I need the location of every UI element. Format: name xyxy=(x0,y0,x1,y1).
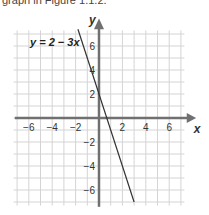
y-tick-label: 2 xyxy=(89,89,95,100)
y-tick-label: −6 xyxy=(84,185,96,196)
line-y-equals-2-minus-3x xyxy=(78,29,134,202)
x-tick-label: 2 xyxy=(120,122,126,133)
x-tick-label: −4 xyxy=(46,122,58,133)
y-tick-label: 6 xyxy=(89,41,95,52)
x-axis-label: x xyxy=(193,122,202,136)
line-series xyxy=(78,29,134,202)
y-axis-label: y xyxy=(88,13,97,27)
y-tick-label: −2 xyxy=(84,137,96,148)
x-tick-label: 6 xyxy=(166,122,172,133)
coordinate-plane: −6−4−2246642−2−4−6 x y y = 2 − 3x xyxy=(0,0,209,215)
y-tick-label: −4 xyxy=(84,161,96,172)
x-tick-label: 4 xyxy=(143,122,149,133)
equation-label: y = 2 − 3x xyxy=(29,36,80,48)
x-tick-label: −6 xyxy=(23,122,35,133)
x-tick-label: −2 xyxy=(70,122,82,133)
